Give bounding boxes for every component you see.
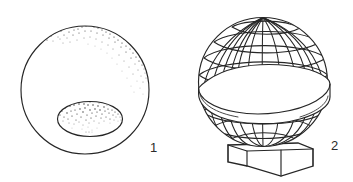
pedestal-base [228, 143, 313, 176]
panel-1-group: 1 [21, 20, 157, 155]
illustration-svg: 1 [0, 0, 353, 182]
panel-1-caption: 1 [150, 140, 157, 155]
panel-2-caption: 2 [331, 138, 338, 153]
panel-2-group: 2 [199, 18, 339, 177]
figure-canvas: 1 [0, 0, 353, 182]
